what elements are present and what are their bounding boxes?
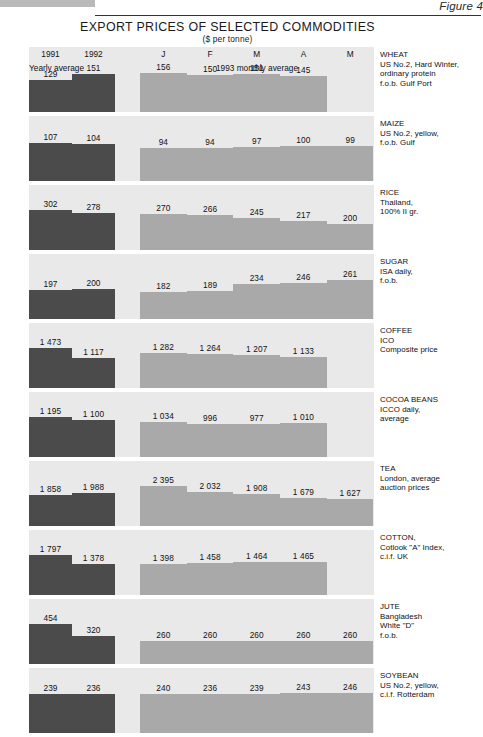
bar-fill	[29, 290, 73, 319]
commodity-caption: RICEThailand,100% II gr.	[380, 188, 481, 217]
monthly-bar-A: 1 679	[280, 498, 327, 526]
bar-fill	[280, 641, 328, 664]
bar-fill	[280, 498, 328, 526]
commodity-description-line: Composite price	[380, 345, 481, 355]
monthly-bar-M: 261	[327, 280, 374, 319]
bar-fill	[187, 291, 235, 319]
bar-fill	[140, 564, 188, 595]
bar-value-label: 234	[233, 273, 280, 283]
bar-value-label: 1 797	[29, 544, 72, 554]
yearly-bar-1991: 454	[29, 624, 72, 664]
monthly-bar-J: 2 395	[140, 486, 187, 526]
panel-plot-area: 197200182189234246261	[29, 254, 374, 319]
bar-value-label: 2 395	[140, 475, 187, 485]
bar-fill	[233, 562, 281, 595]
monthly-bar-F: 996	[187, 424, 234, 457]
yearly-bar-1991: 1 797	[29, 555, 72, 595]
bar-value-label: 200	[72, 278, 115, 288]
commodity-description-line: US No.2, yellow,	[380, 129, 481, 139]
monthly-bar-F: 1 264	[187, 354, 234, 388]
bar-fill	[187, 563, 235, 595]
commodity-row: 10710494949710099MAIZEUS No.2, yellow,f.…	[0, 116, 481, 181]
bar-value-label: 239	[29, 683, 72, 693]
commodity-caption: COFFEEICOComposite price	[380, 326, 481, 355]
yearly-bar-1992: 104	[72, 144, 115, 181]
panel-plot-area: 10710494949710099	[29, 116, 374, 181]
header-gray-block	[0, 0, 95, 7]
chart-subtitle: ($ per tonne)	[0, 34, 455, 44]
commodity-name: COFFEE	[380, 326, 481, 336]
bar-fill	[327, 641, 375, 664]
axis-group-label-monthly: 1993 monthly average	[140, 63, 374, 73]
yearly-bar-1991: 107	[29, 143, 72, 181]
bar-fill	[233, 694, 281, 733]
bar-fill	[72, 358, 116, 388]
bar-fill	[29, 555, 73, 595]
monthly-bar-M: 260	[327, 641, 374, 664]
bar-value-label: 454	[29, 613, 72, 623]
axis-tick-month-4: M	[327, 49, 374, 59]
bar-fill	[140, 694, 188, 733]
bar-value-label: 260	[233, 630, 280, 640]
bar-fill	[327, 693, 375, 733]
bar-fill	[140, 422, 188, 457]
yearly-bar-1992: 1 988	[72, 493, 115, 526]
bar-fill	[72, 144, 116, 181]
bar-value-label: 270	[140, 203, 187, 213]
bar-fill	[187, 354, 235, 388]
bar-value-label: 1 195	[29, 406, 72, 416]
commodity-description-line: c.i.f. Rotterdam	[380, 690, 481, 700]
bar-fill	[327, 499, 375, 526]
bar-fill	[140, 292, 188, 319]
x-axis: 19911992JFMAMYearly average1993 monthly …	[0, 47, 481, 87]
panel-plot-area: 454320260260260260260	[29, 599, 374, 664]
monthly-bar-F: 2 032	[187, 492, 234, 526]
bar-fill	[140, 486, 188, 526]
yearly-bar-1992: 1 378	[72, 564, 115, 595]
commodity-description-line: ICCO daily,	[380, 405, 481, 415]
monthly-bar-F: 266	[187, 215, 234, 250]
yearly-bar-1991: 1 473	[29, 348, 72, 388]
bar-value-label: 1 133	[280, 346, 327, 356]
panel-plot-area: 239236240236239243246	[29, 668, 374, 733]
bar-fill	[29, 694, 73, 733]
yearly-bar-1992: 200	[72, 289, 115, 319]
commodity-description-line: c.i.f. UK	[380, 552, 481, 562]
bar-fill	[280, 562, 328, 595]
commodity-description-line: f.o.b. Gulf	[380, 138, 481, 148]
axis-tick-1992: 1992	[72, 49, 115, 59]
monthly-bar-A: 260	[280, 641, 327, 664]
bar-value-label: 260	[327, 630, 374, 640]
yearly-bar-1991: 239	[29, 694, 72, 733]
bar-value-label: 94	[140, 137, 187, 147]
bar-value-label: 182	[140, 281, 187, 291]
bar-value-label: 1 010	[280, 412, 327, 422]
monthly-bar-A: 1 010	[280, 423, 327, 457]
axis-group-label-yearly: Yearly average	[29, 63, 129, 73]
bar-value-label: 977	[233, 413, 280, 423]
bar-fill	[140, 353, 188, 388]
bar-fill	[29, 143, 73, 181]
bar-fill	[327, 280, 375, 319]
bar-fill	[187, 148, 235, 181]
bar-value-label: 1 988	[72, 482, 115, 492]
bar-fill	[72, 493, 116, 526]
commodity-caption: COTTON,Cotlook "A" Index,c.i.f. UK	[380, 533, 481, 562]
commodity-name: SOYBEAN	[380, 671, 481, 681]
monthly-bar-J: 182	[140, 292, 187, 319]
commodity-row: 197200182189234246261SUGARISA daily,f.o.…	[0, 254, 481, 319]
commodity-description-line: Cotlook "A" Index,	[380, 543, 481, 553]
bar-value-label: 1 264	[187, 343, 234, 353]
monthly-bar-M: 246	[327, 693, 374, 733]
bar-value-label: 2 032	[187, 481, 234, 491]
monthly-bar-M: 200	[327, 224, 374, 250]
monthly-bar-M: 1 908	[233, 494, 280, 526]
bar-fill	[29, 210, 73, 250]
figure-number-label: Figure 4	[439, 0, 483, 12]
monthly-bar-M: 245	[233, 218, 280, 250]
commodity-description-line: ISA daily,	[380, 267, 481, 277]
monthly-bar-A: 243	[280, 693, 327, 733]
bar-fill	[29, 624, 73, 664]
bar-value-label: 246	[280, 272, 327, 282]
bar-fill	[233, 494, 281, 526]
